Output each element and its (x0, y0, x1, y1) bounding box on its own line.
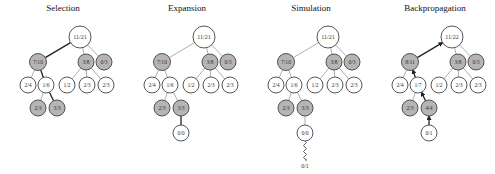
tree-node: 2/3 (402, 100, 418, 116)
tree-node: 3/8 (202, 54, 218, 70)
tree-node: 0/0 (297, 125, 313, 141)
tree-edge (169, 43, 194, 58)
tree-edge (165, 70, 168, 77)
tree-edge (289, 70, 292, 77)
node-label: 1/2 (187, 82, 194, 88)
node-label: 7/10 (157, 59, 167, 65)
tree-node: 1/2 (59, 77, 75, 93)
panel-expansion: Expansion11/217/103/80/32/41/61/22/32/32… (144, 3, 238, 141)
node-label: 0/3 (472, 59, 479, 65)
tree-edge (421, 92, 425, 101)
node-label: 4/4 (425, 105, 432, 111)
tree-node: 7/10 (30, 54, 47, 71)
tree-edge (72, 68, 81, 79)
tree-node: 0/3 (96, 54, 112, 70)
panel-selection: Selection11/217/103/80/32/41/61/22/32/32… (20, 3, 114, 116)
tree-edge (196, 68, 205, 79)
node-label: 2/3 (350, 82, 357, 88)
tree-node: 2/4 (268, 77, 284, 93)
tree-node: 3/8 (450, 54, 466, 70)
tree-node: 2/3 (346, 77, 362, 93)
tree-node: 11/21 (69, 26, 91, 48)
tree-edge (155, 70, 158, 78)
node-label: 2/4 (396, 82, 403, 88)
tree-node: 0/1 (421, 125, 437, 141)
tree-node: 3/8 (326, 54, 342, 70)
tree-node: 2/3 (470, 77, 486, 93)
node-label: 2/3 (282, 105, 289, 111)
tree-node: 11/21 (317, 26, 339, 48)
node-label: 3/3 (301, 105, 308, 111)
node-label: 1/6 (42, 82, 49, 88)
tree-edge (455, 48, 457, 55)
tree-edge (49, 92, 53, 101)
tree-node: 1/6 (286, 77, 302, 93)
node-label: 3/3 (53, 105, 60, 111)
node-label: 0/0 (177, 130, 184, 136)
tree-node: 2/4 (144, 77, 160, 93)
tree-node: 2/3 (79, 77, 95, 93)
node-label: 0/3 (224, 59, 231, 65)
node-label: 1/2 (63, 82, 70, 88)
tree-edge (339, 68, 349, 79)
panel-backpropagation: Backpropagation11/228/113/80/32/41/71/22… (392, 3, 486, 141)
node-label: 1/6 (166, 82, 173, 88)
node-label: 1/2 (311, 82, 318, 88)
tree-node: 0/3 (220, 54, 236, 70)
tree-edge (297, 92, 301, 101)
tree-edge (320, 68, 329, 79)
tree-node: 2/3 (154, 100, 170, 116)
tree-edge (463, 68, 473, 79)
tree-edge (173, 92, 177, 101)
tree-node: 0/0 (173, 125, 189, 141)
node-label: 8/11 (405, 59, 415, 65)
tree-node: 1/7 (410, 77, 426, 93)
tree-node: 7/10 (278, 54, 295, 71)
tree-edge (331, 48, 333, 55)
node-label: 1/6 (290, 82, 297, 88)
panel-simulation: Simulation0/111/217/103/80/32/41/61/22/3… (268, 3, 362, 169)
tree-edge (41, 93, 44, 101)
tree-node: 3/3 (173, 100, 189, 116)
node-label: 0/0 (301, 130, 308, 136)
tree-node: 8/11 (402, 54, 419, 71)
tree-node: 4/4 (421, 100, 437, 116)
node-label: 1/2 (435, 82, 442, 88)
tree-edge (83, 48, 85, 55)
node-label: 11/22 (445, 34, 458, 40)
node-label: 0/3 (348, 59, 355, 65)
simulation-rollout (304, 141, 307, 160)
tree-node: 2/3 (203, 77, 219, 93)
tree-edge (45, 43, 70, 58)
node-label: 3/8 (330, 59, 337, 65)
node-label: 2/4 (24, 82, 31, 88)
tree-node: 3/3 (297, 100, 313, 116)
node-label: 11/21 (197, 34, 210, 40)
node-label: 11/21 (321, 34, 334, 40)
tree-edge (403, 70, 406, 78)
tree-edge (279, 70, 282, 78)
simulation-result: 0/1 (301, 163, 309, 169)
tree-node: 11/22 (441, 26, 463, 48)
tree-node: 3/8 (78, 54, 94, 70)
tree-edge (417, 43, 442, 58)
node-label: 3/8 (454, 59, 461, 65)
tree-node: 1/2 (183, 77, 199, 93)
tree-node: 1/6 (162, 77, 178, 93)
panel-title: Backpropagation (404, 3, 466, 13)
tree-node: 2/4 (20, 77, 36, 93)
tree-node: 1/2 (307, 77, 323, 93)
node-label: 2/3 (34, 105, 41, 111)
tree-edge (289, 93, 292, 101)
tree-node: 0/3 (468, 54, 484, 70)
node-label: 2/3 (226, 82, 233, 88)
node-label: 3/8 (206, 59, 213, 65)
tree-node: 1/6 (38, 77, 54, 93)
node-label: 2/3 (406, 105, 413, 111)
tree-edge (207, 48, 209, 55)
node-label: 0/3 (100, 59, 107, 65)
tree-node: 2/3 (451, 77, 467, 93)
tree-edge (413, 93, 416, 101)
tree-edge (293, 43, 318, 58)
node-label: 3/8 (82, 59, 89, 65)
